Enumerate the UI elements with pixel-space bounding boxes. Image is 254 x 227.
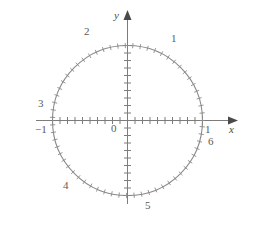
arc-label-5: 5	[145, 200, 151, 211]
x-tick-label-one: 1	[205, 124, 211, 135]
figure-canvas: y x 0 −1 1 1 2 3 4 5 6	[0, 0, 254, 227]
arc-label-2: 2	[84, 26, 90, 37]
arc-label-6: 6	[208, 136, 214, 147]
unit-circle-plot	[0, 0, 254, 227]
arc-label-4: 4	[63, 180, 69, 191]
x-axis-label: x	[229, 124, 234, 135]
arc-label-1: 1	[171, 33, 177, 44]
origin-label: 0	[111, 123, 117, 134]
x-tick-label-negative-one: −1	[35, 124, 47, 135]
y-axis-label: y	[114, 10, 119, 21]
axes-group	[36, 10, 238, 204]
y-axis-arrowhead	[124, 10, 132, 20]
arc-label-3: 3	[38, 98, 44, 109]
